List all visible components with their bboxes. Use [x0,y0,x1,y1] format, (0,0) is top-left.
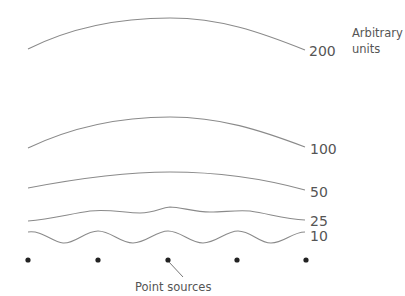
point-source-2 [95,257,100,262]
units-label-line1: Arbitrary [352,26,403,40]
contour-10 [28,231,305,243]
contour-label-50: 50 [310,184,328,200]
contour-label-25: 25 [310,213,328,229]
isopleth-diagram: 200 Arbitrary units 100 50 25 10 Point s… [0,0,405,296]
point-source-1 [25,257,30,262]
point-source-3 [165,257,170,262]
contour-label-100: 100 [310,141,337,157]
contour-200 [28,18,305,50]
contour-100 [28,117,305,148]
contour-label-10: 10 [310,228,328,244]
contour-25 [28,207,305,221]
point-source-5 [303,257,308,262]
point-sources-leader-line [169,262,183,277]
contour-label-200: 200 [309,43,336,59]
contour-50 [28,172,305,190]
point-source-4 [234,257,239,262]
units-label-line2: units [352,42,380,56]
point-sources-label: Point sources [135,280,211,294]
